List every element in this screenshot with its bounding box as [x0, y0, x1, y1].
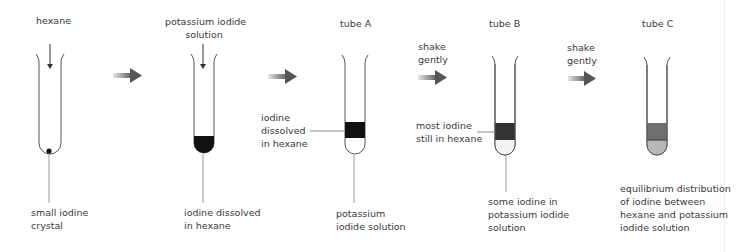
label-tube-a-hexane-layer: iodine dissolved in hexane	[261, 111, 308, 150]
tube-1	[36, 44, 64, 203]
label-potassium-iodide-solution: potassium iodide solution	[165, 15, 243, 41]
label-shake-gently-2: shake gently	[567, 41, 597, 67]
label-tube-a-ki-layer: potassium iodide solution	[336, 207, 406, 233]
label-tube-b-ki-layer: some iodine in potassium iodide solution	[488, 195, 569, 234]
tube-2	[191, 44, 217, 203]
label-small-iodine-crystal: small iodine crystal	[31, 206, 88, 232]
arrow-right-icon	[268, 69, 297, 84]
tube-b	[477, 56, 518, 192]
label-shake-gently-1: shake gently	[418, 40, 448, 66]
label-tube-b-hexane-layer: most iodine still in hexane	[416, 119, 482, 145]
label-equilibrium-distribution: equilibrium distribution of iodine betwe…	[620, 182, 731, 234]
iodine-crystal	[46, 148, 51, 153]
arrow-right-icon	[418, 70, 447, 85]
arrow-right-icon	[113, 68, 142, 83]
tube-c	[644, 57, 670, 155]
arrow-down-icon	[200, 64, 206, 69]
label-tube-b: tube B	[489, 17, 520, 30]
tube-a	[310, 55, 368, 203]
arrow-down-icon	[47, 64, 53, 69]
label-hexane: hexane	[36, 14, 71, 27]
label-tube-c: tube C	[642, 17, 673, 30]
label-tube-a: tube A	[340, 17, 371, 30]
arrow-right-icon	[568, 71, 596, 86]
label-iodine-dissolved-in-hexane: iodine dissolved in hexane	[184, 206, 261, 232]
